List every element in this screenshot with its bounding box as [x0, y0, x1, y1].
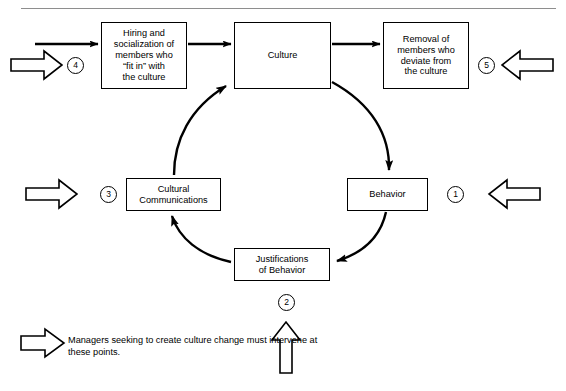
marker-5[interactable]: 5: [478, 57, 495, 74]
hollow-arrow-marker-4: [11, 51, 62, 79]
top-rule: [21, 8, 556, 9]
node-culture-label: Culture: [268, 50, 298, 61]
marker-1[interactable]: 1: [447, 186, 464, 203]
node-cultural-communications[interactable]: Cultural Communications: [126, 178, 221, 211]
node-hiring-line-3: members who: [114, 50, 174, 61]
node-justifications-of-behavior[interactable]: Justifications of Behavior: [234, 248, 330, 281]
marker-2[interactable]: 2: [278, 294, 295, 311]
hollow-arrow-legend: [21, 329, 64, 357]
node-removal-line-3: deviate from: [397, 56, 455, 67]
culture-cycle-figure: Hiring and socialization of members who …: [0, 0, 566, 391]
arrow-culture-to-behavior: [332, 82, 389, 170]
node-justifications-line-2: of Behavior: [256, 265, 309, 276]
arrow-behavior-to-justifications: [337, 212, 386, 261]
legend-caption: Managers seeking to create culture chang…: [68, 334, 318, 359]
node-behavior[interactable]: Behavior: [347, 178, 428, 211]
node-removal-line-1: Removal of: [397, 34, 455, 45]
node-communications-line-2: Communications: [139, 195, 207, 206]
node-behavior-label: Behavior: [369, 189, 405, 200]
hollow-arrow-marker-3: [26, 180, 77, 208]
marker-3[interactable]: 3: [100, 186, 117, 203]
node-culture[interactable]: Culture: [234, 22, 331, 89]
arrow-communications-to-culture: [174, 86, 226, 175]
node-removal-line-2: members who: [397, 45, 455, 56]
node-hiring-line-1: Hiring and: [114, 28, 174, 39]
node-hiring-line-2: socialization of: [114, 39, 174, 50]
node-communications-line-1: Cultural: [139, 184, 207, 195]
hollow-arrow-marker-5: [502, 51, 553, 79]
node-hiring-line-4: “fit in” with: [114, 61, 174, 72]
node-removal-line-4: the culture: [397, 66, 455, 77]
hollow-arrow-marker-1: [489, 180, 540, 208]
node-hiring-line-5: the culture: [114, 72, 174, 83]
node-removal-of-members[interactable]: Removal of members who deviate from the …: [383, 22, 469, 89]
arrow-justifications-to-communications: [172, 216, 231, 262]
node-hiring-and-socialization[interactable]: Hiring and socialization of members who …: [101, 22, 187, 89]
node-justifications-line-1: Justifications: [256, 254, 309, 265]
legend-caption-line-1: Managers seeking to create culture: [68, 335, 212, 345]
marker-4[interactable]: 4: [67, 57, 84, 74]
